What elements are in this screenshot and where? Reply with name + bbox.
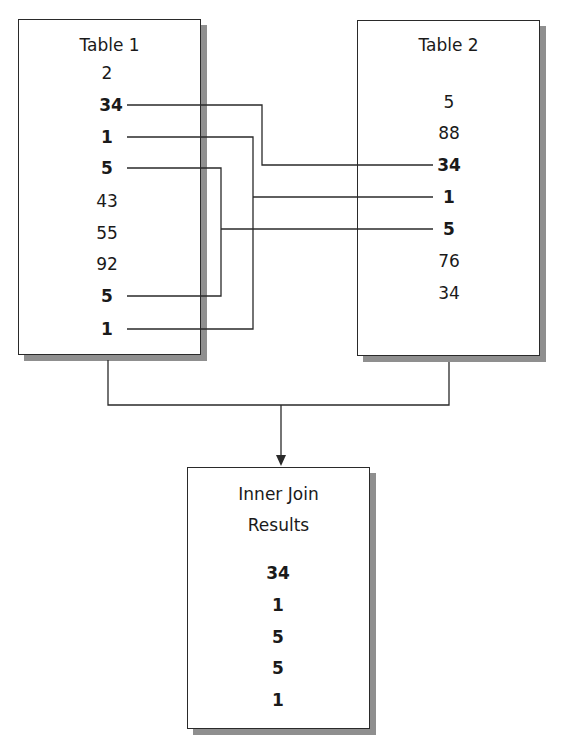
table-1-title: Table 1 <box>19 35 200 55</box>
merge-bracket <box>108 360 449 405</box>
table-2-row: 5 <box>438 219 460 239</box>
table-2-title: Table 2 <box>358 35 539 55</box>
results-row: 34 <box>263 563 293 583</box>
results-row: 1 <box>267 690 289 710</box>
table-1-row: 1 <box>96 127 118 147</box>
table-2-row: 34 <box>434 155 464 175</box>
table-1-row: 2 <box>92 63 122 83</box>
table-1-row: 5 <box>96 158 118 178</box>
table-2-row: 88 <box>434 123 464 143</box>
results-row: 5 <box>267 627 289 647</box>
table-1-row: 1 <box>96 319 118 339</box>
results-title-line-1: Inner Join <box>188 484 369 504</box>
table-2-row: 34 <box>434 283 464 303</box>
table-2-row: 76 <box>434 251 464 271</box>
table-1-row: 92 <box>92 254 122 274</box>
table-2-row: 1 <box>438 187 460 207</box>
results-row: 1 <box>267 595 289 615</box>
table-2-row: 5 <box>434 92 464 112</box>
table-1-row: 34 <box>96 95 126 115</box>
arrow-head-icon <box>276 455 286 466</box>
results-title-line-2: Results <box>188 515 369 535</box>
results-row: 5 <box>267 658 289 678</box>
table-1-row: 43 <box>92 191 122 211</box>
table-1-row: 55 <box>92 223 122 243</box>
table-1-row: 5 <box>96 286 118 306</box>
